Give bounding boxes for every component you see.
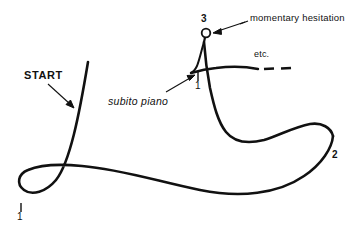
- label-subito-piano: subito piano: [108, 96, 168, 107]
- gesture-diagram: START momentary hesitation etc. subito p…: [0, 0, 356, 237]
- beat-three-circle-icon: [202, 29, 211, 38]
- start-arrow: [48, 84, 74, 108]
- main-gesture-path: [19, 62, 333, 194]
- label-momentary-hesitation: momentary hesitation: [250, 13, 345, 23]
- label-start: START: [24, 70, 63, 81]
- label-beat-one-mid: 1: [195, 81, 201, 91]
- subito-piano-arrow: [166, 75, 195, 92]
- hesitation-leader-line: [240, 21, 248, 24]
- peak-spike-left-path: [191, 42, 204, 73]
- label-beat-two: 2: [332, 150, 338, 160]
- dashed-continuation-line: [264, 68, 291, 69]
- peak-base-path: [191, 67, 258, 73]
- label-beat-three: 3: [201, 14, 207, 24]
- label-beat-one-left: 1: [17, 212, 23, 222]
- label-etc: etc.: [254, 50, 269, 59]
- gesture-stroke-canvas: [0, 0, 356, 237]
